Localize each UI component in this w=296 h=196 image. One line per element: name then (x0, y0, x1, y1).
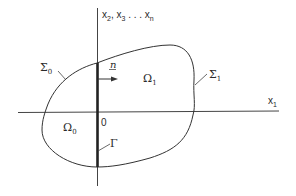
sigma1-leader (195, 74, 207, 85)
gamma-leader (98, 144, 110, 151)
domain-boundary-curve (42, 45, 194, 167)
horizontal-axis-label: x1 (268, 95, 277, 108)
sigma0-leader (58, 71, 66, 80)
normal-vector-label: n (110, 59, 116, 70)
domain-diagram: n x2, x3 . . . xn x1 0 Σ0 Σ1 Ω1 Ω0 Γ (0, 0, 296, 196)
x1-axis (18, 111, 279, 113)
normal-vector-arrow (98, 70, 118, 82)
omega0-label: Ω0 (63, 121, 77, 136)
origin-label: 0 (101, 117, 107, 128)
sigma1-label: Σ1 (209, 68, 221, 83)
vertical-axis-label: x2, x3 . . . xn (102, 9, 154, 22)
gamma-label: Γ (110, 137, 118, 150)
sigma0-label: Σ0 (40, 61, 52, 76)
omega1-label: Ω1 (143, 72, 157, 87)
